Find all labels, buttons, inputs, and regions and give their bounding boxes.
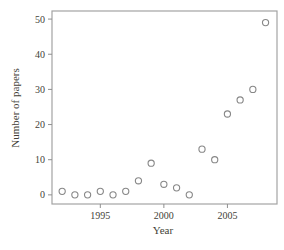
figure-canvas: 01020304050199520002005 Year Number of p… [0,0,284,250]
data-point [212,157,218,163]
x-axis-tick-label: 1995 [90,210,110,221]
data-point [199,146,205,152]
data-point [148,160,154,166]
y-axis-tick-label: 0 [40,189,45,200]
data-point [72,192,78,198]
papers-per-year-scatter-chart: 01020304050199520002005 Year Number of p… [0,0,284,250]
y-axis-tick-label: 50 [35,14,45,25]
data-point [250,86,256,92]
data-point [59,188,65,194]
data-point [135,178,141,184]
x-axis-label: Year [153,224,174,236]
y-axis-tick-label: 20 [35,119,45,130]
data-point [110,192,116,198]
y-axis-label: Number of papers [9,68,21,147]
y-axis-tick-label: 10 [35,154,45,165]
data-point [186,192,192,198]
data-point [262,20,268,26]
plot-area: 01020304050199520002005 [35,11,277,221]
data-point [84,192,90,198]
data-point [161,181,167,187]
x-axis-tick-label: 2000 [154,210,174,221]
y-axis-tick-label: 40 [35,49,45,60]
x-axis-tick-label: 2005 [217,210,237,221]
data-point [237,97,243,103]
data-point [224,111,230,117]
data-point [123,188,129,194]
plot-frame [52,11,277,204]
y-axis-tick-label: 30 [35,84,45,95]
data-point [173,185,179,191]
data-point [97,188,103,194]
